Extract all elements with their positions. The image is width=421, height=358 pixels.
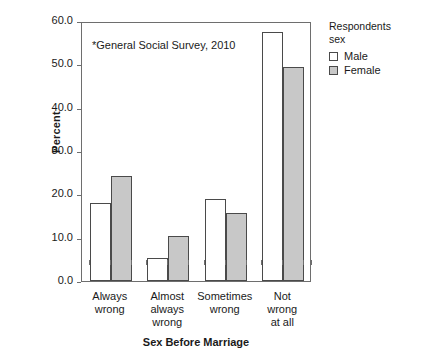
x-category-label: Alwayswrong	[81, 290, 139, 316]
legend-swatch-male-icon	[329, 52, 338, 61]
x-category-label-line: Sometimes	[196, 290, 254, 303]
x-category-label-line: at all	[254, 316, 312, 329]
y-tick-label: 40.0	[33, 101, 73, 113]
x-tick-mark	[261, 260, 262, 265]
x-category-label-line: always	[139, 303, 197, 316]
bar	[90, 203, 111, 281]
bar	[168, 236, 189, 281]
bar-chart: Percent *General Social Survey, 2010 0.0…	[0, 0, 421, 358]
bar	[111, 176, 132, 281]
x-tick-mark	[303, 260, 304, 265]
x-category-label-line: wrong	[139, 316, 197, 329]
plot-area: *General Social Survey, 2010	[81, 22, 311, 282]
x-category-label-line: wrong	[196, 303, 254, 316]
x-category-label-line: Almost	[139, 290, 197, 303]
y-tick-mark	[77, 239, 81, 240]
legend-title-line-2: sex	[329, 33, 421, 46]
legend-label-male: Male	[344, 50, 368, 62]
legend-item-male[interactable]: Male	[329, 50, 421, 62]
x-tick-mark	[204, 260, 205, 265]
bar	[226, 213, 247, 281]
legend-title-line-1: Respondents	[329, 20, 421, 33]
y-tick-mark	[77, 152, 81, 153]
legend-item-female[interactable]: Female	[329, 64, 421, 76]
bar	[262, 32, 283, 281]
legend-label-female: Female	[344, 64, 381, 76]
x-category-label-line: Always	[81, 290, 139, 303]
x-tick-mark	[89, 260, 90, 265]
x-category-label-line: wrong	[254, 303, 312, 316]
legend: Respondents sex Male Female	[329, 20, 421, 78]
y-tick-mark	[77, 22, 81, 23]
y-tick-mark	[77, 109, 81, 110]
x-tick-mark	[311, 260, 312, 265]
x-tick-mark	[81, 260, 82, 265]
bar	[147, 258, 168, 281]
legend-title: Respondents sex	[329, 20, 421, 45]
x-tick-mark	[225, 260, 226, 265]
x-category-label: Sometimeswrong	[196, 290, 254, 316]
bar	[283, 67, 304, 281]
x-tick-mark	[188, 260, 189, 265]
y-tick-label: 60.0	[33, 14, 73, 26]
y-tick-label: 10.0	[33, 231, 73, 243]
x-tick-mark	[282, 260, 283, 265]
legend-swatch-female-icon	[329, 66, 338, 75]
x-category-label: Notwrongat all	[254, 290, 312, 329]
y-tick-label: 20.0	[33, 187, 73, 199]
x-axis-title: Sex Before Marriage	[81, 336, 311, 348]
y-tick-label: 50.0	[33, 57, 73, 69]
y-tick-mark	[77, 282, 81, 283]
x-category-label-line: Not	[254, 290, 312, 303]
x-tick-mark	[131, 260, 132, 265]
y-tick-mark	[77, 65, 81, 66]
x-tick-mark	[246, 260, 247, 265]
y-tick-mark	[77, 195, 81, 196]
y-tick-label: 30.0	[33, 144, 73, 156]
x-category-label: Almostalwayswrong	[139, 290, 197, 329]
bars-layer	[82, 23, 310, 281]
y-tick-label: 0.0	[33, 274, 73, 286]
x-category-label-line: wrong	[81, 303, 139, 316]
x-tick-mark	[110, 260, 111, 265]
x-tick-mark	[167, 260, 168, 265]
x-tick-mark	[146, 260, 147, 265]
bar	[205, 199, 226, 281]
